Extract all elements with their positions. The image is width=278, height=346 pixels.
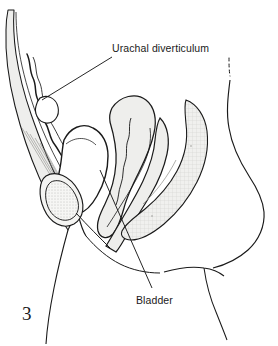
sacrum-texture-dot xyxy=(190,145,192,147)
back-contour-dashed xyxy=(229,58,230,76)
figure-number: 3 xyxy=(22,303,32,325)
figure-container: Urachal diverticulum Bladder 3 xyxy=(0,0,278,346)
label-urachal-diverticulum: Urachal diverticulum xyxy=(112,42,209,54)
label-bladder: Bladder xyxy=(136,294,173,306)
back-contour-line xyxy=(213,80,264,268)
urachal-cyst-bulge xyxy=(35,96,58,123)
leader-line-urachal xyxy=(42,57,112,100)
sacrum-texture-dot xyxy=(151,215,153,217)
posterior-thigh-line xyxy=(204,268,227,340)
anterior-thigh-line xyxy=(46,230,68,344)
gluteal-fold-line xyxy=(164,267,224,276)
